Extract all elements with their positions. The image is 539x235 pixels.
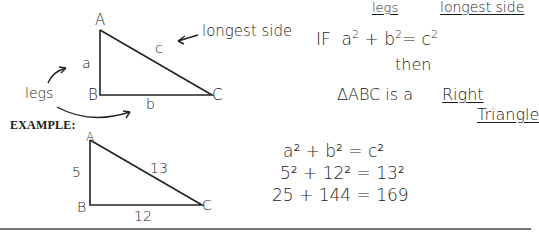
example-vertex-b: B <box>77 199 86 215</box>
legs-arrow-right-icon <box>57 107 130 117</box>
longest-side-note: longest side <box>440 0 524 15</box>
example-heading: EXAMPLE: <box>10 118 76 133</box>
longest-side-label: longest side <box>202 22 292 40</box>
example-side-b: 12 <box>134 208 152 224</box>
conclusion-prefix: ΔABC is a <box>337 85 413 104</box>
example-side-c: 13 <box>150 160 168 176</box>
example-side-a: 5 <box>72 164 81 180</box>
legs-label: legs <box>25 85 53 101</box>
legs-note: legs <box>372 0 398 15</box>
bottom-divider <box>0 228 531 230</box>
example-triangle <box>90 140 202 205</box>
if-text: IF <box>316 29 331 49</box>
work-line-3: 25 + 144 = 169 <box>272 185 409 205</box>
work-line-1: a² + b² = c² <box>283 141 384 161</box>
example-vertex-a: A <box>86 130 94 144</box>
exp: 2 <box>395 28 402 41</box>
example-vertex-c: C <box>202 197 212 213</box>
vertex-b-label: B <box>88 86 98 104</box>
side-b-label: b <box>146 96 155 112</box>
var-b: b <box>384 29 395 49</box>
vertex-c-label: C <box>212 86 222 104</box>
var-a: a <box>342 29 352 49</box>
work-line-2: 5² + 12² = 13² <box>280 163 405 183</box>
theorem-equation: IF a2 + b2= c2 <box>316 28 438 49</box>
exp: 2 <box>431 28 438 41</box>
side-c-label: c <box>155 40 163 56</box>
var-c: c <box>422 29 431 49</box>
exp: 2 <box>352 28 359 41</box>
then-text: then <box>395 55 431 74</box>
side-a-label: a <box>82 55 91 71</box>
right-word: Right <box>442 85 484 104</box>
vertex-a-label: A <box>95 11 105 29</box>
triangle-word: Triangle <box>477 105 539 124</box>
